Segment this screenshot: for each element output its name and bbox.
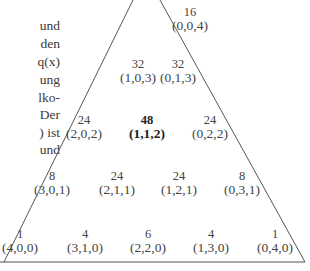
triangle-node: 1(0,4,0) <box>257 227 293 255</box>
node-coordinate: (1,1,2) <box>129 127 165 141</box>
triangle-node: 8(0,3,1) <box>224 169 260 197</box>
triangle-node: 4(1,3,0) <box>193 227 229 255</box>
node-weight: 4 <box>67 227 103 241</box>
node-weight: 24 <box>99 169 135 183</box>
node-weight: 8 <box>34 169 70 183</box>
node-coordinate: (1,2,1) <box>161 183 197 197</box>
triangle-node: 24(2,0,2) <box>66 113 102 141</box>
node-coordinate: (2,0,2) <box>66 127 102 141</box>
node-weight: 32 <box>120 57 156 71</box>
triangle-node: 8(3,0,1) <box>34 169 70 197</box>
node-weight: 48 <box>129 113 165 127</box>
triangle-node: 24(1,2,1) <box>161 169 197 197</box>
node-weight: 24 <box>161 169 197 183</box>
triangle-node: 24(0,2,2) <box>192 113 228 141</box>
node-weight: 24 <box>66 113 102 127</box>
node-coordinate: (0,2,2) <box>192 127 228 141</box>
node-coordinate: (2,1,1) <box>99 183 135 197</box>
triangle-node: 32(1,0,3) <box>120 57 156 85</box>
node-coordinate: (3,0,1) <box>34 183 70 197</box>
node-weight: 1 <box>2 227 38 241</box>
triangle-node: 24(2,1,1) <box>99 169 135 197</box>
node-coordinate: (3,1,0) <box>67 241 103 255</box>
node-coordinate: (1,3,0) <box>193 241 229 255</box>
node-coordinate: (0,1,3) <box>160 71 196 85</box>
node-weight: 8 <box>224 169 260 183</box>
node-weight: 4 <box>193 227 229 241</box>
node-weight: 24 <box>192 113 228 127</box>
triangle-node: 6(2,2,0) <box>130 227 166 255</box>
node-weight: 16 <box>172 5 208 19</box>
node-weight: 6 <box>130 227 166 241</box>
node-coordinate: (2,2,0) <box>130 241 166 255</box>
triangle-node: 16(0,0,4) <box>172 5 208 33</box>
triangle-node: 4(3,1,0) <box>67 227 103 255</box>
node-coordinate: (0,0,4) <box>172 19 208 33</box>
node-coordinate: (4,0,0) <box>2 241 38 255</box>
node-coordinate: (0,3,1) <box>224 183 260 197</box>
node-coordinate: (0,4,0) <box>257 241 293 255</box>
node-weight: 1 <box>257 227 293 241</box>
node-weight: 32 <box>160 57 196 71</box>
node-coordinate: (1,0,3) <box>120 71 156 85</box>
triangle-node: 48(1,1,2) <box>129 113 165 141</box>
triangle-node: 1(4,0,0) <box>2 227 38 255</box>
triangle-node: 32(0,1,3) <box>160 57 196 85</box>
